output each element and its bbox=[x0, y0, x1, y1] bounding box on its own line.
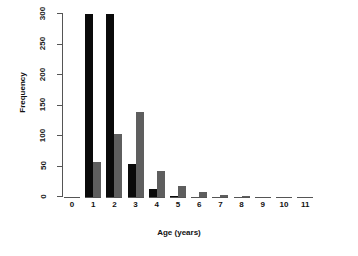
x-tick-label-3: 3 bbox=[126, 200, 146, 209]
bar-chart-figure: 050100150200250300 Frequency 01234567891… bbox=[0, 0, 358, 256]
x-tick-label-11: 11 bbox=[295, 200, 315, 209]
bar-series-gray-age-5 bbox=[178, 186, 186, 197]
bar-series-black-age-4 bbox=[149, 189, 157, 197]
x-tick-label-5: 5 bbox=[168, 200, 188, 209]
x-tick-4 bbox=[149, 197, 165, 198]
x-tick-10 bbox=[276, 197, 292, 198]
x-tick-2 bbox=[106, 197, 122, 198]
x-tick-label-2: 2 bbox=[104, 200, 124, 209]
bar-series-gray-age-7 bbox=[220, 195, 228, 197]
x-tick-7 bbox=[212, 197, 228, 198]
bar-series-black-age-1 bbox=[85, 14, 93, 197]
x-tick-0 bbox=[64, 197, 80, 198]
plot-area: 050100150200250300 Frequency 01234567891… bbox=[0, 0, 358, 256]
bar-series-gray-age-6 bbox=[199, 192, 207, 197]
bar-series-gray-age-2 bbox=[114, 134, 122, 197]
x-tick-label-6: 6 bbox=[189, 200, 209, 209]
x-tick-label-1: 1 bbox=[83, 200, 103, 209]
x-tick-3 bbox=[128, 197, 144, 198]
x-tick-1 bbox=[85, 197, 101, 198]
bar-series-gray-age-3 bbox=[136, 112, 144, 197]
x-tick-8 bbox=[234, 197, 250, 198]
bar-series-gray-age-8 bbox=[242, 196, 250, 197]
x-tick-11 bbox=[297, 197, 313, 198]
x-tick-9 bbox=[255, 197, 271, 198]
bar-series-black-age-2 bbox=[106, 14, 114, 197]
x-tick-label-0: 0 bbox=[62, 200, 82, 209]
bar-series-black-age-5 bbox=[170, 196, 178, 197]
x-tick-6 bbox=[191, 197, 207, 198]
x-tick-5 bbox=[170, 197, 186, 198]
x-tick-label-10: 10 bbox=[274, 200, 294, 209]
x-tick-label-9: 9 bbox=[253, 200, 273, 209]
x-tick-label-7: 7 bbox=[210, 200, 230, 209]
bar-series-gray-age-4 bbox=[157, 171, 165, 197]
x-tick-label-4: 4 bbox=[147, 200, 167, 209]
x-tick-label-8: 8 bbox=[232, 200, 252, 209]
bars-container bbox=[0, 0, 358, 197]
bar-series-gray-age-1 bbox=[93, 162, 101, 197]
bar-series-black-age-3 bbox=[128, 164, 136, 197]
x-axis-title: Age (years) bbox=[0, 228, 358, 237]
